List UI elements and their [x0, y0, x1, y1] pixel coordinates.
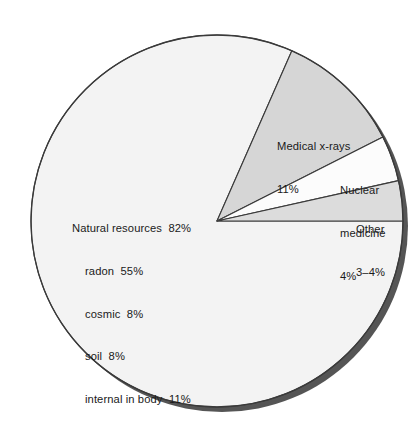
- natural-total-line: Natural resources 82%: [72, 221, 191, 235]
- natural-internal-line: internal in body 11%: [72, 392, 191, 406]
- other-value-line: 3–4%: [356, 265, 385, 279]
- pie-chart-figure: Natural resources 82% radon 55% cosmic 8…: [0, 0, 416, 434]
- slice-label-natural-resources: Natural resources 82% radon 55% cosmic 8…: [72, 193, 191, 434]
- natural-cosmic-line: cosmic 8%: [72, 307, 191, 321]
- natural-radon-line: radon 55%: [72, 264, 191, 278]
- xray-name-line: Medical x-rays: [277, 139, 351, 153]
- slice-label-other: Other 3–4%: [356, 194, 385, 308]
- other-name-line: Other: [356, 222, 385, 236]
- natural-soil-line: soil 8%: [72, 349, 191, 363]
